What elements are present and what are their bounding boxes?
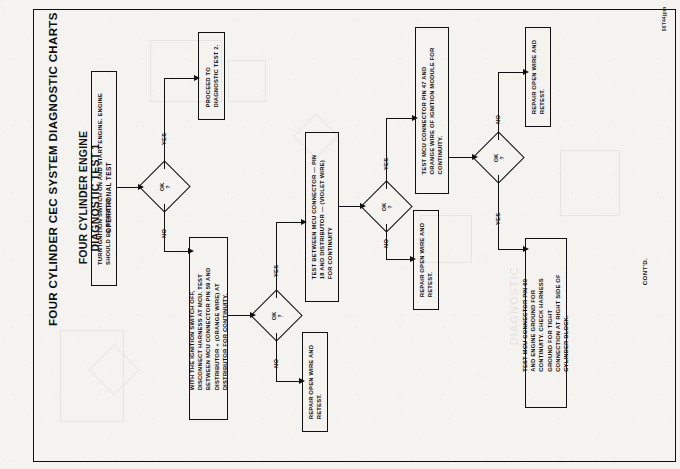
decision-ok-1-label: OK ? xyxy=(158,182,171,190)
continued-label: CONT'D. xyxy=(641,258,648,285)
watermark-text: DIAGNOSTIC xyxy=(508,266,520,345)
test-pin-47-box[interactable]: TEST MCU CONNECTOR PIN 47 AND ORANGE WIR… xyxy=(415,27,449,194)
heading-line-1: FOUR CYLINDER ENGINE xyxy=(77,93,89,303)
branch-label-d4-yes: YES xyxy=(495,213,501,225)
repair-open-wire-1-label: REPAIR OPEN WIRE AND RETEST. xyxy=(307,345,323,419)
branch-label-d4-no: NO xyxy=(495,115,501,124)
proceed-to-test-2-box[interactable]: PROCEED TO DIAGNOSTIC TEST 2. xyxy=(198,32,225,120)
connector-d3-yes-h xyxy=(386,118,413,119)
connector-start-to-d1 xyxy=(117,187,139,188)
proceed-to-test-2-label: PROCEED TO DIAGNOSTIC TEST 2. xyxy=(203,45,219,108)
branch-label-d1-no: NO xyxy=(161,229,167,238)
connector-pin47-to-d4 xyxy=(449,157,473,158)
connector-d4-no xyxy=(498,72,499,140)
branch-label-d3-yes: YES xyxy=(383,158,389,170)
decision-ok-2-label: OK ? xyxy=(270,311,283,319)
test-pin-18-label: TEST BETWEEN MCU CONNECTOR — PIN 18 AND … xyxy=(310,155,335,279)
decision-ok-4-label: OK ? xyxy=(492,153,505,161)
test-pin-59-box[interactable]: WITH THE IGNITION SWITCH OFF, DISCONNECT… xyxy=(189,237,228,420)
branch-label-d2-yes: YES xyxy=(273,265,279,277)
test-pin-59-label: WITH THE IGNITION SWITCH OFF, DISCONNECT… xyxy=(188,267,229,390)
connector-d1-yes-h xyxy=(164,78,195,79)
connector-d3-yes xyxy=(386,118,387,189)
connector-pin59-to-d2 xyxy=(228,315,251,316)
corner-reference-code: 96T44jpm xyxy=(662,7,668,32)
repair-open-wire-3-label: REPAIR OPEN WIRE AND RETEST. xyxy=(530,40,546,114)
decision-ok-1[interactable]: OK ? xyxy=(146,168,183,205)
connector-d2-yes xyxy=(276,222,277,298)
chart-frame: FOUR CYLINDER ENGINE DIAGNOSTIC TEST 1 O… xyxy=(33,9,676,462)
test-pin-18-box[interactable]: TEST BETWEEN MCU CONNECTOR — PIN 18 AND … xyxy=(305,132,339,302)
connector-d2-yes-h xyxy=(276,222,302,223)
connector-d4-yes-h xyxy=(498,249,524,250)
connector-d1-yes xyxy=(164,78,165,169)
repair-open-wire-box-1[interactable]: REPAIR OPEN WIRE AND RETEST. xyxy=(302,332,328,432)
decision-ok-3[interactable]: OK ? xyxy=(368,188,405,225)
start-test-box-label: TURN IGNITION SWITCH ON AND START ENGINE… xyxy=(96,93,112,265)
repair-open-wire-box-2[interactable]: REPAIR OPEN WIRE AND RETEST. xyxy=(413,210,439,310)
repair-open-wire-box-3[interactable]: REPAIR OPEN WIRE AND RETEST. xyxy=(525,27,551,127)
connector-d1-no-h xyxy=(164,251,189,252)
test-pin-60-label: TEST MCU CONNECTOR PIN 60 AND ENGINE GRO… xyxy=(521,274,570,372)
connector-d2-no-h xyxy=(276,381,300,382)
branch-label-d3-no: NO xyxy=(383,239,389,248)
start-test-box[interactable]: TURN IGNITION SWITCH ON AND START ENGINE… xyxy=(91,71,117,286)
branch-label-d2-no: NO xyxy=(273,359,279,368)
decision-ok-2[interactable]: OK ? xyxy=(258,297,295,334)
decision-ok-3-label: OK ? xyxy=(380,202,393,210)
connector-pin18-to-d3 xyxy=(339,206,361,207)
connector-d3-no-h xyxy=(386,259,411,260)
branch-label-d1-yes: YES xyxy=(161,133,167,145)
test-pin-60-box[interactable]: TEST MCU CONNECTOR PIN 60 AND ENGINE GRO… xyxy=(525,238,567,408)
connector-d4-no-h xyxy=(498,72,524,73)
decision-ok-4[interactable]: OK ? xyxy=(480,139,517,176)
test-pin-47-label: TEST MCU CONNECTOR PIN 47 AND ORANGE WIR… xyxy=(420,47,445,174)
connector-d2-no xyxy=(276,333,277,382)
repair-open-wire-2-label: REPAIR OPEN WIRE AND RETEST. xyxy=(418,223,434,297)
